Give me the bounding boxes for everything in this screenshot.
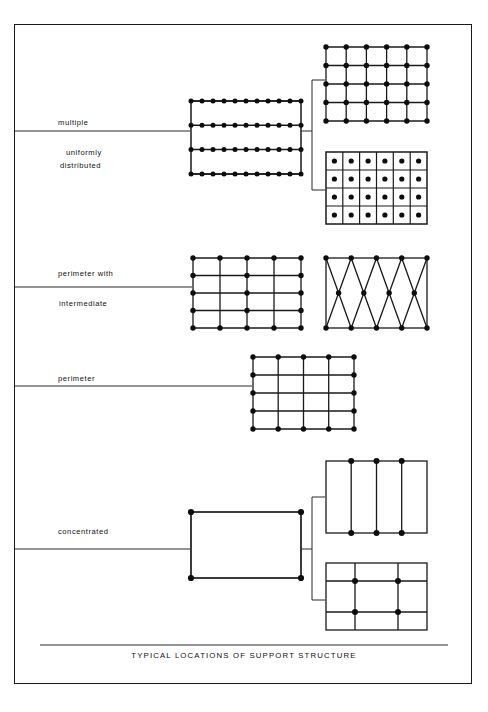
label-distributed: distributed [60,161,101,170]
diagram-perimeter-grid [253,357,354,429]
label-intermediate: intermediate [59,299,107,308]
label-multiple: multiple [58,118,89,127]
label-concentrated: concentrated [58,527,109,536]
label-perimeter-with: perimeter with [58,269,113,278]
label-uniformly: uniformly [66,148,102,157]
figure-caption: TYPICAL LOCATIONS OF SUPPORT STRUCTURE [0,651,488,660]
linear-rows-dots [189,99,304,177]
diagram-cross-grid [326,563,427,630]
figure-page: multiple uniformly distributed perimeter… [0,0,488,712]
diagram-cell-grid [326,152,427,224]
corner-rect-dots [188,509,304,581]
diagram-point-grid [326,47,427,121]
bracket-row-4 [301,497,325,600]
linear-rows-outline [191,101,301,174]
label-perimeter: perimeter [58,374,95,383]
truss-zigzag-dots [323,255,429,330]
diagram-three-vertical-lines [326,461,427,533]
category-divider-lines [15,131,252,549]
diagram-linear-rows [191,101,301,174]
cross-grid-dots [352,578,401,615]
bracket-row-1 [301,80,325,190]
diagram-corner-rect [191,512,301,578]
diagram-canvas [0,0,488,712]
